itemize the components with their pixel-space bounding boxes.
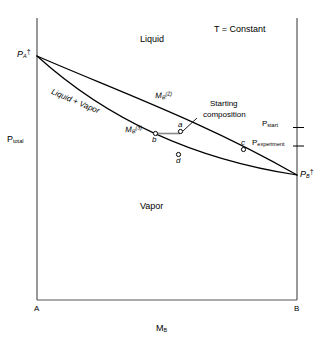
composition-label-mb2: MB(2)	[155, 91, 172, 101]
point-label-a: a	[178, 121, 182, 129]
temperature-condition-label: T = Constant	[214, 25, 266, 34]
point-c-marker	[241, 147, 245, 151]
point-label-d: d	[176, 157, 180, 165]
x-tick-label-b: B	[294, 305, 299, 313]
point-label-c: c	[241, 139, 245, 147]
vapor-curve	[37, 56, 297, 175]
composition-mb3-superscript: (3)	[135, 124, 142, 130]
p-start-label: Pstart	[262, 120, 278, 129]
p-start-subscript: start	[267, 122, 278, 128]
p-experiment-subscript: experiment	[257, 141, 284, 147]
region-label-liquid: Liquid	[140, 35, 164, 44]
starting-composition-leader-line	[183, 118, 197, 131]
pure-a-pressure-label: PA†	[17, 48, 31, 60]
y-axis-label-subscript: total	[13, 138, 23, 144]
pure-b-pressure-label: PB†	[300, 168, 314, 180]
y-axis-label: Ptotal	[7, 135, 23, 145]
x-axis-label-symbol: M	[156, 323, 164, 333]
diagram-canvas	[0, 0, 321, 344]
x-axis-label-subscript: B	[164, 327, 168, 333]
phase-diagram-figure: T = Constant Liquid Vapor Liquid + Vapor…	[0, 0, 321, 344]
point-label-b: b	[152, 136, 156, 144]
liquid-curve	[37, 56, 297, 175]
composition-mb2-superscript: (2)	[165, 90, 172, 96]
pure-b-pressure-superscript: †	[310, 168, 314, 175]
pure-a-pressure-superscript: †	[27, 48, 31, 55]
composition-label-mb3: MB(3)	[125, 125, 142, 135]
starting-composition-label-line2: composition	[203, 111, 246, 119]
starting-composition-label-line1: Starting	[210, 100, 238, 108]
axis-frame	[37, 18, 297, 300]
p-experiment-label: Pexperiment	[252, 139, 285, 148]
region-label-vapor: Vapor	[140, 202, 163, 211]
point-a-marker	[178, 129, 182, 133]
x-axis-label: MB	[156, 324, 167, 334]
x-tick-label-a: A	[34, 305, 39, 313]
